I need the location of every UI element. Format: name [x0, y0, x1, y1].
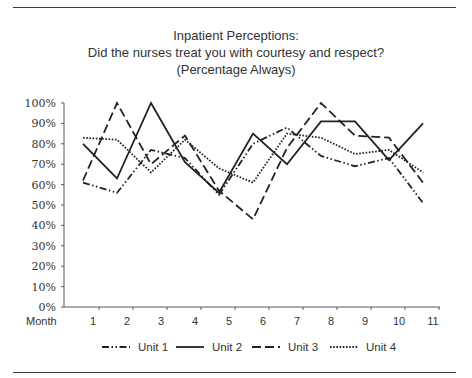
- legend-item-unit-4: Unit 4: [330, 341, 397, 353]
- x-tick-label: 3: [158, 315, 164, 327]
- legend-label: Unit 2: [212, 341, 242, 353]
- x-tick-label: 10: [393, 315, 405, 327]
- bottom-rule: [13, 372, 456, 373]
- legend-label: Unit 3: [288, 341, 318, 353]
- y-axis: 0%10%20%30%40%50%60%70%80%90%100%: [25, 97, 64, 314]
- y-tick-label: 40%: [32, 219, 56, 232]
- legend-item-unit-2: Unit 2: [176, 341, 242, 353]
- x-tick-label: 7: [294, 315, 300, 327]
- y-tick-label: 80%: [32, 138, 56, 151]
- legend-item-unit-3: Unit 3: [252, 341, 318, 353]
- x-tick-label: 1: [90, 315, 96, 327]
- y-tick-label: 50%: [32, 199, 56, 212]
- x-tick-label: 4: [192, 315, 198, 327]
- y-tick-label: 30%: [32, 240, 56, 253]
- y-tick-label: 90%: [32, 117, 56, 130]
- x-tick-label: 2: [124, 315, 130, 327]
- x-tick-label: 8: [328, 315, 334, 327]
- line-chart: 0%10%20%30%40%50%60%70%80%90%100% Month1…: [0, 0, 472, 378]
- legend-label: Unit 1: [138, 341, 168, 353]
- x-axis: Month1234567891011: [26, 307, 440, 327]
- x-tick-label: 5: [226, 315, 232, 327]
- y-tick-label: 70%: [32, 158, 56, 171]
- y-tick-label: 60%: [32, 179, 56, 192]
- x-tick-label: 9: [362, 315, 368, 327]
- legend-item-unit-1: Unit 1: [102, 341, 168, 353]
- y-tick-label: 0%: [39, 301, 56, 314]
- series-lines: [83, 103, 423, 219]
- y-tick-label: 10%: [32, 281, 56, 294]
- series-line-unit-3: [83, 103, 423, 219]
- x-tick-label: 6: [260, 315, 266, 327]
- y-tick-label: 100%: [25, 97, 56, 110]
- x-tick-label: 11: [427, 315, 438, 327]
- series-line-unit-2: [83, 103, 423, 193]
- y-tick-label: 20%: [32, 260, 56, 273]
- legend: Unit 1Unit 2Unit 3Unit 4: [102, 341, 397, 353]
- legend-label: Unit 4: [366, 341, 397, 353]
- x-axis-label: Month: [26, 315, 57, 327]
